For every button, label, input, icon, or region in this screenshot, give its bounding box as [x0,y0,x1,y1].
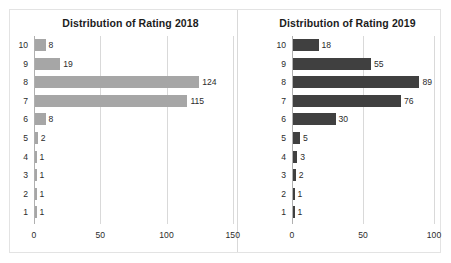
bar[interactable] [293,206,295,218]
category-label: 2 [266,189,286,199]
bar[interactable] [35,169,37,181]
bar[interactable] [293,113,336,125]
bar[interactable] [35,76,199,88]
bar-row[interactable]: 955 [238,55,441,73]
category-label: 10 [8,40,28,50]
bar-row[interactable]: 32 [238,166,441,184]
bar[interactable] [35,58,60,70]
bar-value-label: 89 [422,77,432,87]
category-label: 7 [8,96,28,106]
bar[interactable] [35,151,37,163]
bar[interactable] [293,95,401,107]
bar[interactable] [293,132,300,144]
x-tick-label: 0 [32,230,37,240]
bar-value-label: 2 [41,133,46,143]
bar-value-label: 3 [300,152,305,162]
bar-value-label: 55 [374,59,384,69]
bar-row[interactable]: 43 [238,148,441,166]
bar-row[interactable]: 55 [238,129,441,147]
bar-value-label: 8 [49,40,54,50]
chart-panel-2019: Distribution of Rating 2019 101895588977… [238,10,441,252]
category-label: 9 [8,59,28,69]
bar[interactable] [35,132,38,144]
bar[interactable] [293,76,419,88]
category-label: 7 [266,96,286,106]
bar-value-label: 1 [298,189,303,199]
bar-row[interactable]: 11 [10,203,237,221]
category-label: 9 [266,59,286,69]
bar-row[interactable]: 68 [10,110,237,128]
x-tick-label: 50 [95,230,105,240]
bar-row[interactable]: 1018 [238,36,441,54]
x-tick-label: 0 [290,230,295,240]
plot-area-2018: 10891981247115685241312111050100150 [10,10,237,252]
bar-row[interactable]: 41 [10,148,237,166]
bar[interactable] [293,169,296,181]
bar[interactable] [293,188,295,200]
bar[interactable] [293,58,371,70]
bar[interactable] [35,188,37,200]
bar-value-label: 1 [40,170,45,180]
bar-value-label: 30 [339,114,349,124]
category-label: 2 [8,189,28,199]
category-label: 10 [266,40,286,50]
category-label: 1 [8,207,28,217]
bar[interactable] [35,39,46,51]
x-tick-label: 100 [159,230,173,240]
category-label: 3 [8,170,28,180]
bar-row[interactable]: 630 [238,110,441,128]
bar-row[interactable]: 7115 [10,92,237,110]
bar[interactable] [293,39,319,51]
category-label: 4 [8,152,28,162]
category-label: 3 [266,170,286,180]
bar[interactable] [35,206,37,218]
bar-value-label: 18 [322,40,332,50]
bar-value-label: 5 [303,133,308,143]
bar-row[interactable]: 31 [10,166,237,184]
bar-value-label: 8 [49,114,54,124]
plot-area-2019: 10189558897766305543322111050100 [238,10,441,252]
bar-value-label: 1 [40,152,45,162]
bar[interactable] [35,113,46,125]
bar-value-label: 1 [298,207,303,217]
category-label: 8 [8,77,28,87]
bar[interactable] [293,151,297,163]
bar-value-label: 2 [299,170,304,180]
bar-value-label: 19 [63,59,73,69]
bar-row[interactable]: 21 [10,185,237,203]
bar-row[interactable]: 21 [238,185,441,203]
bar-row[interactable]: 919 [10,55,237,73]
bar-row[interactable]: 11 [238,203,441,221]
bar-value-label: 1 [40,189,45,199]
category-label: 5 [266,133,286,143]
chart-panel-2018: Distribution of Rating 2018 108919812471… [10,10,237,252]
bar-row[interactable]: 8124 [10,73,237,91]
category-label: 8 [266,77,286,87]
category-label: 5 [8,133,28,143]
category-label: 1 [266,207,286,217]
bar-row[interactable]: 776 [238,92,441,110]
bar-row[interactable]: 889 [238,73,441,91]
category-label: 4 [266,152,286,162]
bar[interactable] [35,95,187,107]
x-tick-label: 100 [427,230,441,240]
bar-row[interactable]: 52 [10,129,237,147]
bar-row[interactable]: 108 [10,36,237,54]
bar-value-label: 124 [202,77,216,87]
screenshot-root: Distribution of Rating 2018 108919812471… [0,0,451,263]
bar-value-label: 115 [190,96,204,106]
x-tick-label: 50 [358,230,368,240]
category-label: 6 [266,114,286,124]
bar-value-label: 76 [404,96,414,106]
bar-value-label: 1 [40,207,45,217]
category-label: 6 [8,114,28,124]
